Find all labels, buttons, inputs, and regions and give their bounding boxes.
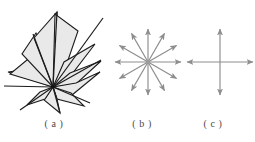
panel-b	[108, 22, 188, 102]
panel-a	[0, 0, 110, 115]
panel-a-caption: ( a )	[24, 118, 84, 130]
panel-c	[185, 22, 255, 102]
cross-arrow-group	[187, 29, 253, 95]
fan-of-planes-svg	[0, 0, 110, 115]
panel-c-caption: ( c )	[183, 118, 243, 130]
panel-b-caption: ( b )	[112, 118, 172, 130]
fan-center-point	[51, 85, 54, 88]
radial-center-point	[147, 61, 150, 64]
radial-arrows-svg	[108, 22, 188, 102]
figure-container: ( a ) ( b ) ( c )	[0, 0, 255, 142]
cross-arrows-svg	[185, 22, 255, 102]
